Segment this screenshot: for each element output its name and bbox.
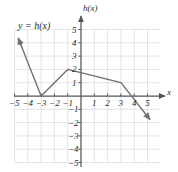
x-tick-label-2: 2 [105, 99, 110, 108]
y-tick-label-1: 1 [72, 79, 77, 88]
curve-label: y = h(x) [18, 21, 50, 31]
y-axis-label: h(x) [83, 4, 98, 13]
x-axis-label: x [167, 88, 171, 97]
x-tick-label-5: 5 [145, 99, 150, 108]
x-tick-label--5: −5 [9, 99, 20, 108]
y-tick-label--4: −4 [68, 145, 79, 154]
x-tick-label--2: −2 [49, 99, 60, 108]
x-tick-label--4: −4 [23, 99, 34, 108]
x-tick-label-1: 1 [92, 99, 97, 108]
x-tick-label--3: −3 [36, 99, 47, 108]
x-tick-label-4: 4 [132, 99, 137, 108]
y-tick-label--1: −1 [68, 105, 79, 114]
y-tick-label-3: 3 [72, 52, 77, 61]
figure-container: y = h(x) h(x) x −5 −4 −3 −2 −1 1 2 3 4 5… [0, 0, 178, 172]
y-tick-label-5: 5 [72, 26, 77, 35]
y-tick-label--2: −2 [68, 119, 79, 128]
x-tick-label-3: 3 [119, 99, 124, 108]
y-tick-label-4: 4 [72, 39, 77, 48]
y-tick-label--3: −3 [68, 132, 79, 141]
y-tick-label--5: −5 [68, 159, 79, 168]
y-tick-label-2: 2 [72, 65, 77, 74]
